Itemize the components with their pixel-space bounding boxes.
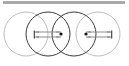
diagram-figure bbox=[0, 0, 129, 66]
center-dot-left bbox=[59, 32, 62, 35]
figure-background bbox=[0, 0, 129, 66]
top-gray-bar bbox=[3, 1, 125, 4]
center-dot-right bbox=[84, 32, 87, 35]
overlapping-circles-svg bbox=[0, 0, 129, 66]
